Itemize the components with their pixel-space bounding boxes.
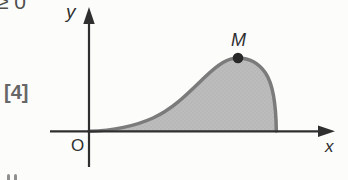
x-axis-arrowhead-icon <box>318 126 335 137</box>
y-axis-label: y <box>66 2 76 21</box>
graph-figure <box>0 0 348 180</box>
clipped-text-fragment <box>6 174 22 180</box>
x-axis-label: x <box>325 138 334 155</box>
y-axis-arrowhead-icon <box>83 7 94 24</box>
clipped-stroke <box>14 174 17 180</box>
point-m-marker <box>233 53 244 64</box>
origin-label: O <box>71 137 84 154</box>
shaded-region <box>89 58 276 131</box>
figure-canvas: ≥ 0 [4] y x O M <box>0 0 348 180</box>
clipped-stroke <box>7 174 10 180</box>
point-m-label: M <box>231 31 246 49</box>
